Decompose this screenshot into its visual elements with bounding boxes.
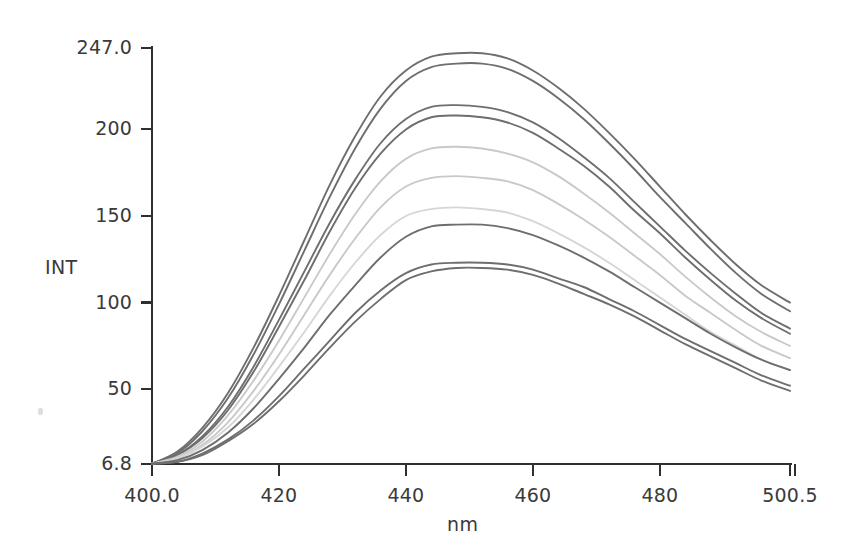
y-tick-label-5: 6.8 — [0, 452, 132, 474]
x-tick-label-1: 420 — [219, 484, 339, 506]
y-tick-label-0: 247.0 — [0, 36, 132, 58]
y-tick-label-1: 200 — [0, 117, 132, 139]
x-axis-title: nm — [447, 513, 478, 535]
y-tick-label-4: 50 — [0, 377, 132, 399]
trace-layer — [152, 53, 790, 464]
y-axis-title: INT — [45, 256, 78, 278]
spectra-figure: INT nm 247.0200150100506.8 400.042044046… — [0, 0, 843, 560]
scan-artifact-speck — [38, 408, 43, 415]
spectrum-trace-4 — [152, 115, 790, 463]
spectrum-trace-5 — [152, 147, 790, 464]
y-tick-label-2: 150 — [0, 204, 132, 226]
emission-spectra-plot — [0, 0, 843, 560]
x-tick-label-2: 440 — [346, 484, 466, 506]
x-tick-label-4: 480 — [600, 484, 720, 506]
spectrum-trace-9 — [152, 263, 790, 464]
x-tick-label-3: 460 — [473, 484, 593, 506]
x-tick-label-0: 400.0 — [92, 484, 212, 506]
y-tick-label-3: 100 — [0, 291, 132, 313]
x-tick-label-5: 500.5 — [730, 484, 843, 506]
